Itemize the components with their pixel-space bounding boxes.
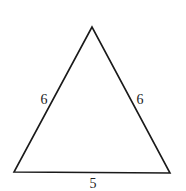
right-side-label: 6 xyxy=(137,92,144,107)
triangle-diagram: 6 6 5 xyxy=(0,0,186,191)
triangle-shape xyxy=(14,27,170,173)
base-label: 5 xyxy=(90,176,97,191)
left-side-label: 6 xyxy=(41,92,48,107)
